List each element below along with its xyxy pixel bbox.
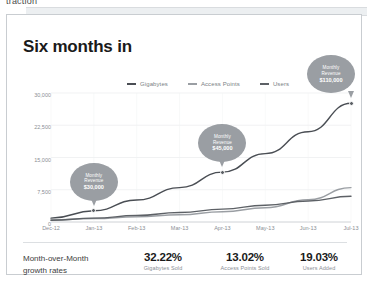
chart-card: Six months in GigabytesAccess PointsUser… <box>6 14 362 275</box>
footer-stats: Month-over-Month growth rates 32.22%Giga… <box>23 251 347 279</box>
annotation-bubble[interactable]: MonthlyRevenue$30,000 <box>70 163 118 201</box>
x-axis-tick-label: Jan-13 <box>85 226 102 232</box>
legend-swatch-icon <box>188 83 197 85</box>
x-axis-tick-label: Apr-13 <box>214 226 231 232</box>
y-axis-tick-label: 22,500 <box>34 125 51 131</box>
footer-stat-label: Users Added <box>274 265 364 271</box>
footer-label-line1: Month-over-Month <box>23 253 133 265</box>
annotation-value: $110,000 <box>319 77 342 84</box>
footer-stat: 32.22%Gigabytes Sold <box>118 251 208 271</box>
annotation-value: $30,000 <box>84 184 104 191</box>
x-axis-tick-label: May-13 <box>256 226 274 232</box>
legend-label: Access Points <box>201 81 240 87</box>
x-axis-tick-label: Jun-13 <box>300 226 317 232</box>
footer-stat-value: 32.22% <box>118 251 208 263</box>
cut-off-heading: traction <box>6 0 37 6</box>
annotation-line-2: Revenue <box>84 178 103 183</box>
legend-swatch-icon <box>260 83 269 85</box>
x-axis-tick-label: Dec-12 <box>42 226 60 232</box>
annotation-bubble-tail <box>219 160 225 167</box>
annotation-line-2: Revenue <box>213 140 232 145</box>
footer-stat-label: Gigabytes Sold <box>118 265 208 271</box>
page-title: Six months in <box>23 37 132 57</box>
annotation-value: $45,000 <box>212 145 232 152</box>
y-axis-tick-label: 30,000 <box>34 93 51 99</box>
footer-divider <box>23 242 347 243</box>
legend-item-gigabytes[interactable]: Gigabytes <box>127 81 168 87</box>
chart-legend: GigabytesAccess PointsUsers <box>127 77 337 91</box>
footer-stat: 19.03%Users Added <box>274 251 364 271</box>
legend-label: Gigabytes <box>140 81 168 87</box>
x-axis-tick-label: Jul-13 <box>344 226 359 232</box>
annotation-marker-dot <box>220 170 225 175</box>
y-axis: 30,00022,50015,0007,5000 <box>23 87 51 227</box>
screenshot-root: traction Six months in GigabytesAccess P… <box>0 0 370 281</box>
annotation-bubble-tail <box>91 199 97 206</box>
legend-item-users[interactable]: Users <box>260 81 289 87</box>
y-axis-tick-label: 15,000 <box>34 158 51 164</box>
x-axis-tick-label: Feb-13 <box>128 226 145 232</box>
annotation-line-2: Revenue <box>321 71 340 76</box>
footer-label: Month-over-Month growth rates <box>23 253 133 276</box>
annotation-marker-dot <box>349 101 354 106</box>
footer-label-line2: growth rates <box>23 265 133 277</box>
x-axis: Dec-12Jan-13Feb-13Mar-13Apr-13May-13Jun-… <box>51 226 351 238</box>
footer-stat-value: 19.03% <box>274 251 364 263</box>
legend-label: Users <box>273 81 289 87</box>
legend-item-access-points[interactable]: Access Points <box>188 81 240 87</box>
legend-swatch-icon <box>127 83 136 85</box>
y-axis-tick-label: 7,500 <box>37 190 51 196</box>
annotation-bubble-tail <box>348 91 354 98</box>
x-axis-tick-label: Mar-13 <box>171 226 188 232</box>
